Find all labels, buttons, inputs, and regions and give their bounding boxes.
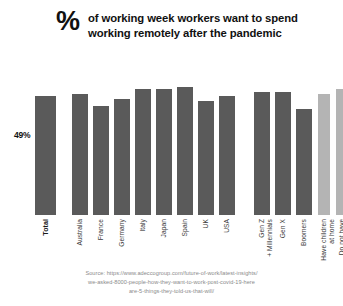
- source-citation: Source: https://www.adeccogroup.com/futu…: [0, 269, 343, 296]
- category-label-total: Total: [42, 219, 50, 236]
- bar-france: [93, 96, 109, 215]
- bar-rect: [93, 106, 109, 215]
- bar-japan: [156, 96, 172, 215]
- category-label-france: France: [97, 219, 105, 240]
- category-label-italy: Italy: [139, 219, 147, 232]
- bar-rect: [275, 92, 291, 215]
- bar-rect: [219, 96, 235, 215]
- title-line-1: of working week workers want to spend: [88, 11, 298, 26]
- category-label-gen-x: Gen X: [279, 219, 287, 238]
- source-line-3: are-5-things-they-told-us-that-will/: [54, 287, 289, 296]
- bar-gen-x: [275, 96, 291, 215]
- bar-spain: [177, 96, 193, 215]
- bar-uk: [198, 96, 214, 215]
- bar-rect: [72, 94, 88, 215]
- bar-boomers: [296, 96, 312, 215]
- bar-italy: [135, 96, 151, 215]
- bar-germany: [114, 96, 130, 215]
- bar-rect: [254, 92, 270, 215]
- bar-rect: [336, 89, 343, 215]
- infographic-root: % of working week workers want to spend …: [0, 0, 343, 306]
- bar-chart-plot: [26, 96, 334, 215]
- page-title: % of working week workers want to spend …: [56, 9, 298, 41]
- category-label-boomers: Boomers: [300, 219, 308, 246]
- bar-total: [35, 96, 56, 215]
- bar-rect: [35, 96, 56, 215]
- source-line-1: Source: https://www.adeccogroup.com/futu…: [54, 269, 289, 278]
- bar-rect: [318, 94, 330, 215]
- bar-australia: [72, 96, 88, 215]
- bar-rect: [135, 89, 151, 215]
- category-label-gen-z-millennials: Gen Z + Millennials: [258, 219, 274, 257]
- bar-rect: [296, 109, 312, 215]
- percent-symbol-icon: %: [56, 9, 79, 34]
- bar-rect: [156, 89, 172, 215]
- category-label-australia: Australia: [76, 219, 84, 246]
- category-label-germany: Germany: [118, 219, 126, 247]
- category-label-do-not-have-children-at-home: Do not have children at home: [338, 219, 343, 269]
- category-label-have-children-at-home: Have children at home: [320, 219, 336, 261]
- bar-rect: [198, 101, 214, 215]
- bar-do-not-have-children-at-home: [336, 96, 343, 215]
- category-label-uk: UK: [202, 219, 210, 228]
- bar-rect: [177, 87, 193, 215]
- category-label-usa: USA: [223, 219, 231, 233]
- source-line-2: we-asked-8000-people-how-they-want-to-wo…: [54, 278, 289, 287]
- bar-gen-z-millennials: [254, 96, 270, 215]
- bar-have-children-at-home: [318, 96, 330, 215]
- category-label-japan: Japan: [160, 219, 168, 237]
- title-line-2: working remotely after the pandemic: [88, 26, 298, 41]
- category-label-spain: Spain: [181, 219, 189, 236]
- bar-usa: [219, 96, 235, 215]
- bar-rect: [114, 99, 130, 215]
- title-text: of working week workers want to spend wo…: [88, 9, 298, 41]
